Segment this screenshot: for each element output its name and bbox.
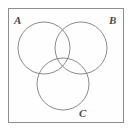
venn-diagram-figure: A B C bbox=[0, 0, 135, 136]
circle-set-b bbox=[55, 22, 107, 74]
set-label-b: B bbox=[109, 15, 116, 26]
set-label-c: C bbox=[79, 108, 86, 119]
set-label-a: A bbox=[14, 15, 21, 26]
